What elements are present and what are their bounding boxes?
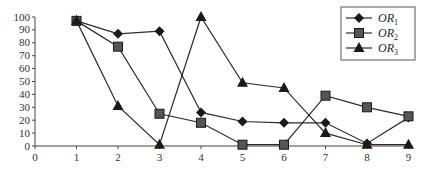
triangle-marker-icon bbox=[113, 100, 124, 110]
square-marker-icon bbox=[114, 42, 123, 51]
square-marker-icon bbox=[363, 103, 372, 112]
diamond-marker-icon bbox=[113, 29, 123, 39]
y-tick-label: 80 bbox=[19, 36, 31, 48]
y-tick-label: 0 bbox=[25, 140, 31, 152]
x-tick-label: 7 bbox=[323, 151, 329, 163]
y-tick-label: 60 bbox=[19, 62, 31, 74]
x-tick-label: 4 bbox=[198, 151, 204, 163]
diamond-marker-icon bbox=[196, 107, 206, 117]
line-chart: 01020304050607080901000123456789 OR1OR2O… bbox=[0, 0, 428, 170]
triangle-marker-icon bbox=[154, 139, 165, 149]
x-tick-label: 1 bbox=[74, 151, 80, 163]
triangle-marker-icon bbox=[237, 77, 248, 87]
triangle-marker-icon bbox=[403, 139, 414, 149]
x-tick-label: 0 bbox=[32, 151, 38, 163]
x-tick-label: 2 bbox=[115, 151, 121, 163]
x-tick-label: 9 bbox=[406, 151, 412, 163]
y-tick-label: 10 bbox=[19, 127, 31, 139]
x-tick-label: 6 bbox=[281, 151, 287, 163]
square-marker-icon bbox=[197, 118, 206, 127]
diamond-marker-icon bbox=[321, 118, 331, 128]
y-tick-label: 70 bbox=[19, 49, 31, 61]
square-marker-icon bbox=[404, 112, 413, 121]
square-marker-icon bbox=[238, 140, 247, 149]
square-marker-icon bbox=[155, 109, 164, 118]
diamond-marker-icon bbox=[155, 26, 165, 36]
x-tick-label: 3 bbox=[157, 151, 163, 163]
y-tick-label: 50 bbox=[19, 75, 31, 87]
y-tick-label: 100 bbox=[14, 11, 31, 23]
square-marker-icon bbox=[280, 140, 289, 149]
y-tick-label: 90 bbox=[19, 23, 31, 35]
y-tick-label: 30 bbox=[19, 101, 31, 113]
square-marker-icon bbox=[355, 29, 364, 38]
square-marker-icon bbox=[321, 91, 330, 100]
diamond-marker-icon bbox=[238, 116, 248, 126]
legend: OR1OR2OR3 bbox=[341, 7, 415, 60]
x-tick-label: 5 bbox=[240, 151, 246, 163]
x-tick-label: 8 bbox=[364, 151, 370, 163]
diamond-marker-icon bbox=[279, 118, 289, 128]
triangle-marker-icon bbox=[196, 11, 207, 21]
y-tick-label: 40 bbox=[19, 88, 31, 100]
y-tick-label: 20 bbox=[19, 114, 31, 126]
